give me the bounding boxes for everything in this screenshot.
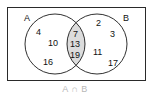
set-a-label: A bbox=[24, 13, 30, 23]
intersection-element: 7 bbox=[73, 29, 78, 39]
set-a-element: 10 bbox=[48, 38, 58, 48]
set-b-element: 2 bbox=[96, 18, 101, 28]
set-b-element: 11 bbox=[93, 47, 102, 57]
set-b-element: 17 bbox=[108, 58, 118, 68]
diagram-caption: A ∩ B bbox=[0, 84, 150, 94]
set-a-element: 4 bbox=[36, 27, 41, 37]
set-b-label: B bbox=[123, 13, 129, 23]
set-b-element: 3 bbox=[110, 29, 115, 39]
intersection-element: 13 bbox=[70, 39, 80, 49]
intersection-element: 19 bbox=[70, 50, 80, 60]
set-a-element: 16 bbox=[43, 57, 53, 67]
